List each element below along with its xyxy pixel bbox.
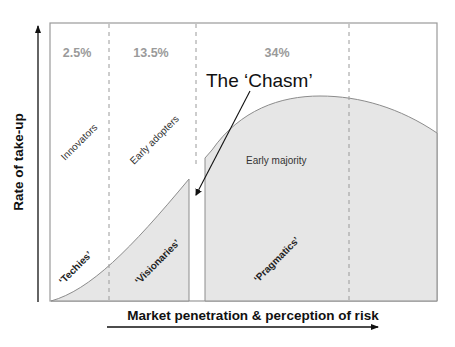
segment-tag-techies: ‘Techies’ [57,249,95,287]
segment-name-early-majority: Early majority [246,155,307,166]
chasm-label: The ‘Chasm’ [206,70,313,91]
adoption-curve-right [205,96,437,301]
segment-name-innovators: Innovators [59,122,100,163]
adoption-curve-left [51,179,189,301]
segment-name-early-adopters: Early adopters [128,113,181,166]
segment-percent-innovators: 2.5% [63,46,92,60]
x-axis-label: Market penetration & perception of risk [127,308,379,323]
y-axis-label: Rate of take-up [11,113,26,211]
segment-percent-early-adopters: 13.5% [133,46,168,60]
chasm-diagram: 2.5% 13.5% 34% Innovators Early adopters… [0,0,455,347]
segment-percent-early-majority: 34% [264,46,289,60]
